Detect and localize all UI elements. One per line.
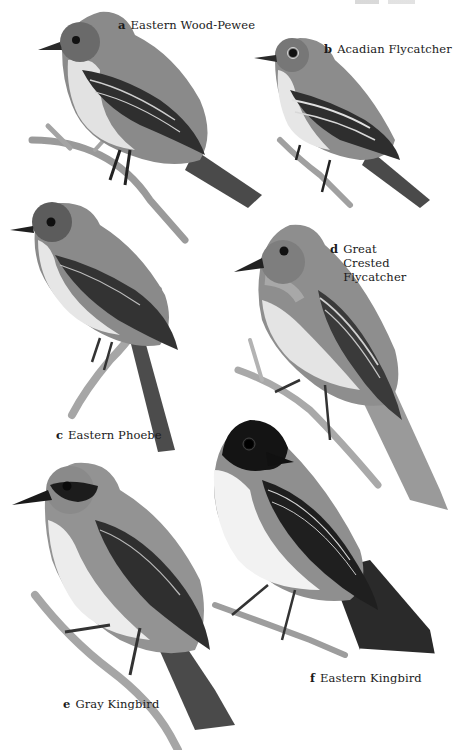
caption-species-name: Eastern Phoebe [68,428,162,442]
caption-species-name: Eastern Kingbird [320,671,422,685]
caption-great-crested-flycatcher: dGreat Crested Flycatcher [330,242,423,284]
caption-letter: a [118,18,126,32]
caption-species-name: Great Crested Flycatcher [343,242,423,284]
caption-letter: e [63,697,70,711]
caption-species-name: Gray Kingbird [75,697,159,711]
caption-letter: f [310,671,315,685]
caption-letter: b [324,42,332,56]
caption-gray-kingbird: eGray Kingbird [63,697,159,711]
caption-letter: d [330,242,338,256]
caption-letter: c [56,428,63,442]
caption-acadian-flycatcher: bAcadian Flycatcher [324,42,452,56]
caption-eastern-phoebe: cEastern Phoebe [56,428,162,442]
field-guide-plate: aEastern Wood-Pewee bAcadian Flycatcher … [0,0,455,750]
caption-eastern-kingbird: fEastern Kingbird [310,671,422,685]
caption-species-name: Acadian Flycatcher [337,42,452,56]
caption-species-name: Eastern Wood-Pewee [131,18,256,32]
eastern-kingbird-illustration [0,0,455,750]
caption-eastern-wood-pewee: aEastern Wood-Pewee [118,18,255,32]
